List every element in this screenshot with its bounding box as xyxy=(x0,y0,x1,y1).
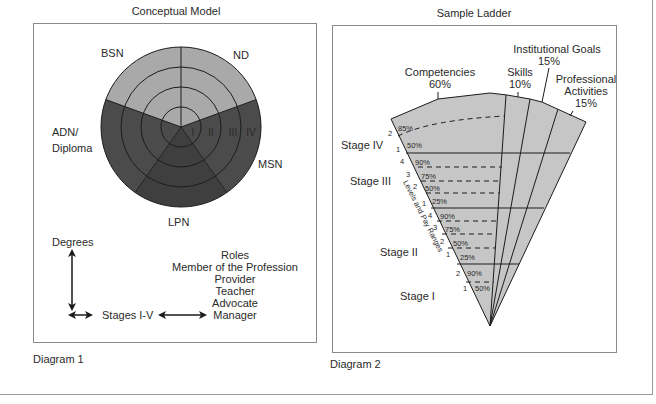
category-name: Activities xyxy=(564,85,608,97)
category-name: Institutional Goals xyxy=(513,43,601,55)
pay-range: 85% xyxy=(398,124,413,133)
role-item: Provider xyxy=(215,273,256,285)
diagram-2-title: Sample Ladder xyxy=(437,7,512,19)
label-msn: MSN xyxy=(258,158,283,170)
pay-range: 90% xyxy=(415,158,430,167)
label-adn: ADN/ xyxy=(52,126,79,138)
level-number: 2 xyxy=(388,129,392,138)
pay-range: 50% xyxy=(425,184,440,193)
level-number: 1 xyxy=(463,284,467,293)
stage-label: Stage IV xyxy=(341,139,384,151)
conceptual-wheel: I II III IV xyxy=(101,47,261,207)
diagrams-canvas: Conceptual Model xyxy=(0,0,656,404)
stage-label: Stage II xyxy=(380,246,418,258)
level-number: 2 xyxy=(456,269,460,278)
label-bsn: BSN xyxy=(101,47,124,59)
category-pct: 60% xyxy=(429,78,451,90)
level-number: 1 xyxy=(446,250,450,259)
label-nd: ND xyxy=(233,49,249,61)
ring-label-iv: IV xyxy=(246,127,256,138)
level-number: 1 xyxy=(396,145,400,154)
role-item: Member of the Profession xyxy=(172,261,298,273)
ring-label-ii: II xyxy=(208,127,214,138)
diagram-1: Conceptual Model xyxy=(33,5,317,365)
ring-label-iii: III xyxy=(229,127,237,138)
diagram-2: Sample Ladder xyxy=(330,7,617,370)
pay-range: 90% xyxy=(467,269,482,278)
role-item: Advocate xyxy=(212,297,258,309)
pay-range: 50% xyxy=(407,141,422,150)
label-diploma: Diploma xyxy=(52,142,93,154)
roles-title: Roles xyxy=(221,249,250,261)
diagram-2-caption: Diagram 2 xyxy=(330,358,381,370)
category-pct: 15% xyxy=(538,55,560,67)
category-name: Competencies xyxy=(405,66,476,78)
pay-range: 25% xyxy=(432,197,447,206)
pay-range: 75% xyxy=(445,225,460,234)
role-item: Teacher xyxy=(215,285,254,297)
pay-range: 50% xyxy=(475,284,490,293)
stage-label: Stage I xyxy=(400,290,435,302)
diagram-1-caption: Diagram 1 xyxy=(33,353,84,365)
pay-range: 50% xyxy=(453,239,468,248)
pay-range: 25% xyxy=(460,253,475,262)
pay-range: 75% xyxy=(421,172,436,181)
level-number: 4 xyxy=(400,157,404,166)
ring-label-i: I xyxy=(192,127,195,138)
category-pct: 15% xyxy=(575,97,597,109)
axis-label-degrees: Degrees xyxy=(52,236,94,248)
role-item: Manager xyxy=(213,309,257,321)
axis-label-stages: Stages I-V xyxy=(102,309,154,321)
pay-range: 90% xyxy=(440,212,455,221)
category-pct: 10% xyxy=(509,78,531,90)
diagram-1-title: Conceptual Model xyxy=(132,5,221,17)
category-name: Professional xyxy=(556,73,617,85)
category-name: Skills xyxy=(507,66,533,78)
label-lpn: LPN xyxy=(168,216,189,228)
stage-label: Stage III xyxy=(350,175,391,187)
